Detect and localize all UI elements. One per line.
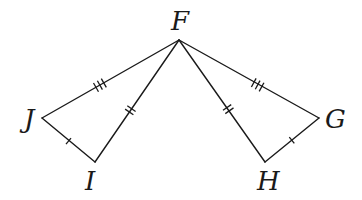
tick-marks-jf-triple [94, 79, 107, 92]
congruent-triangles-diagram: F J I G H [0, 0, 362, 200]
segment-fg [179, 40, 319, 118]
segment-jf [42, 40, 179, 118]
vertex-label-g: G [325, 104, 346, 134]
vertex-label-h: H [256, 166, 281, 196]
vertex-label-i: I [84, 166, 96, 196]
segment-fh [179, 40, 265, 162]
triangle-fji [42, 40, 179, 162]
tick-marks-fg-triple [251, 78, 264, 91]
triangle-fgh [179, 40, 319, 162]
vertex-label-j: J [19, 104, 36, 134]
segment-fi [95, 40, 179, 162]
segment-ji [42, 118, 95, 162]
vertex-label-f: F [170, 6, 190, 36]
